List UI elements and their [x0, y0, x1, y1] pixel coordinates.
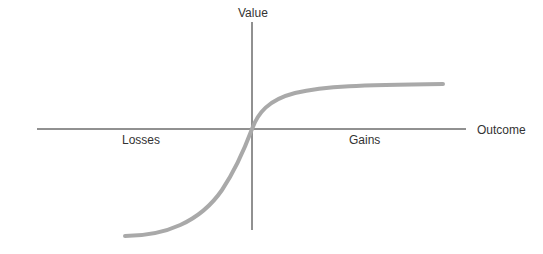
x-axis-label: Outcome — [477, 123, 526, 137]
y-axis-label: Value — [238, 6, 268, 20]
value-curve — [125, 84, 443, 236]
gains-label: Gains — [349, 133, 380, 147]
value-function-diagram — [0, 0, 543, 254]
losses-label: Losses — [122, 133, 160, 147]
